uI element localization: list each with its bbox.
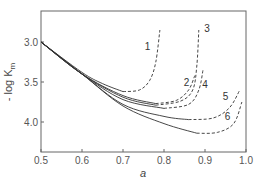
x-tick-label: 0.9 <box>198 155 212 166</box>
x-tick-label: 0.5 <box>34 155 48 166</box>
x-tick-label: 0.8 <box>157 155 171 166</box>
curve-label-2: 2 <box>184 77 190 88</box>
svg-text:- log Km: - log Km <box>2 62 17 101</box>
y-tick-label: 3.0 <box>24 37 38 48</box>
y-axis-label-main: - log K <box>2 69 14 101</box>
y-axis-label-sub: m <box>8 62 17 69</box>
x-axis-label: a <box>140 167 146 179</box>
plot-frame <box>41 11 246 152</box>
curve-label-1: 1 <box>145 41 151 52</box>
x-tick-label: 0.6 <box>75 155 89 166</box>
curves <box>41 30 242 133</box>
y-axis-label: - log Km <box>2 62 17 101</box>
curve-1-solid <box>41 42 123 92</box>
curve-1-dashed <box>123 30 160 92</box>
curve-label-4: 4 <box>202 79 208 90</box>
curve-3-solid <box>41 42 156 105</box>
curve-label-5: 5 <box>223 91 229 102</box>
curve-5-dashed <box>189 90 240 120</box>
curve-4-dashed <box>164 70 203 108</box>
curve-6-solid <box>41 42 197 133</box>
curve-2-solid <box>41 42 156 104</box>
y-tick-label: 3.5 <box>24 77 38 88</box>
curve-labels: 123456 <box>145 23 231 121</box>
chart: 0.50.60.70.80.91.0 3.03.54.0 123456 a - … <box>0 0 263 180</box>
x-tick-label: 0.7 <box>116 155 130 166</box>
curve-label-3: 3 <box>204 23 210 34</box>
curve-3-dashed <box>156 30 199 105</box>
y-tick-label: 4.0 <box>24 117 38 128</box>
curve-label-6: 6 <box>225 111 231 122</box>
curve-6-dashed <box>197 102 242 133</box>
x-tick-label: 1.0 <box>239 155 253 166</box>
